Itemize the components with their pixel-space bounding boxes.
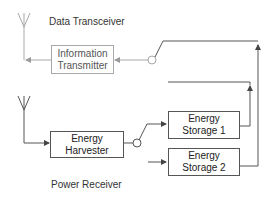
block-label-line2: Storage 1 bbox=[182, 125, 225, 137]
block-label-line1: Information bbox=[57, 48, 107, 60]
switch-icon-data bbox=[148, 56, 156, 64]
block-label-line2: Storage 2 bbox=[182, 162, 225, 174]
block-energy-harvester: Energy Harvester bbox=[50, 131, 124, 158]
block-energy-storage-1: Energy Storage 1 bbox=[168, 111, 240, 139]
block-energy-storage-2: Energy Storage 2 bbox=[168, 148, 240, 176]
block-label-line2: Transmitter bbox=[57, 60, 107, 72]
block-label-line1: Energy bbox=[188, 150, 220, 162]
section-label-power-receiver: Power Receiver bbox=[51, 179, 122, 190]
block-label-line1: Energy bbox=[71, 133, 103, 145]
antenna-icon-data bbox=[18, 13, 30, 60]
block-label-line2: Harvester bbox=[65, 145, 108, 157]
block-label-line1: Energy bbox=[188, 113, 220, 125]
section-label-data-transceiver: Data Transceiver bbox=[49, 16, 125, 27]
antenna-icon-power bbox=[18, 96, 30, 143]
switch-icon-power bbox=[133, 139, 141, 147]
block-information-transmitter: Information Transmitter bbox=[51, 45, 114, 74]
